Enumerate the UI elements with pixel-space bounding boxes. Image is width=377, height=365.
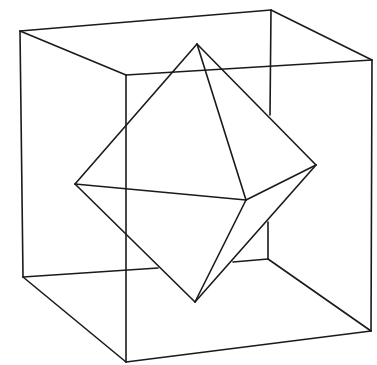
cube-edge-13 — [233, 259, 268, 262]
cube-edge-0 — [20, 10, 271, 31]
octahedron-edge-7 — [195, 165, 316, 302]
octahedron-edge-3 — [75, 184, 246, 200]
cube-edge-6 — [371, 60, 372, 331]
octahedron-in-cube-diagram — [0, 0, 377, 365]
cube-edge-12 — [23, 268, 158, 277]
cube-edge-1 — [271, 10, 372, 60]
cube-wireframe — [20, 10, 372, 362]
octahedron-edge-4 — [246, 165, 316, 200]
octahedron-edge-0 — [75, 44, 197, 184]
cube-edge-8 — [126, 331, 371, 362]
cube-edge-7 — [23, 277, 126, 362]
cube-edge-4 — [20, 31, 23, 277]
octahedron-edge-5 — [75, 184, 195, 302]
cube-edge-2 — [20, 31, 126, 75]
octahedron-edge-6 — [195, 200, 246, 302]
cube-edge-3 — [126, 60, 372, 75]
cube-edge-10 — [270, 10, 271, 115]
octahedron-wireframe — [75, 44, 316, 302]
cube-edge-9 — [268, 259, 371, 331]
octahedron-edge-1 — [197, 44, 316, 165]
